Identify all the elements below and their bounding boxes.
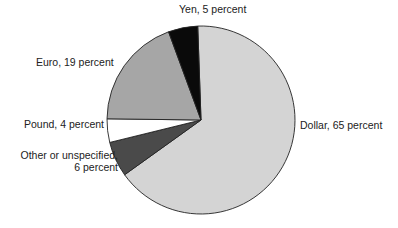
label-other: Other or unspecified, 6 percent bbox=[16, 149, 118, 173]
label-other-line1: Other or unspecified, bbox=[16, 149, 118, 161]
pie-chart bbox=[0, 0, 398, 228]
label-other-line2: 6 percent bbox=[16, 161, 118, 173]
label-dollar: Dollar, 65 percent bbox=[300, 119, 382, 131]
label-pound: Pound, 4 percent bbox=[24, 118, 104, 130]
label-euro: Euro, 19 percent bbox=[36, 56, 114, 68]
label-yen: Yen, 5 percent bbox=[179, 3, 246, 15]
